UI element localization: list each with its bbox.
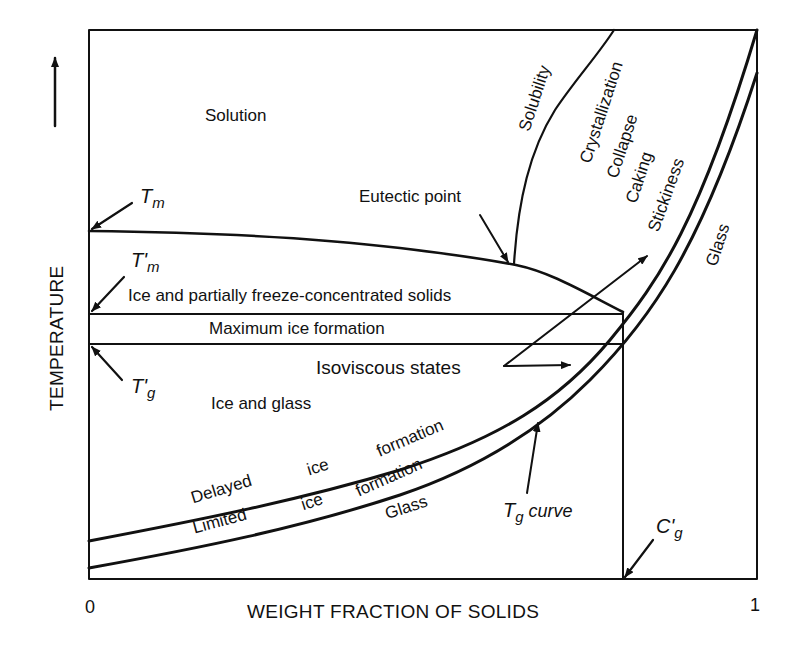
tm-prime-arrow xyxy=(92,277,124,311)
region-solution: Solution xyxy=(205,107,266,124)
y-axis-label: TEMPERATURE xyxy=(47,266,66,411)
tg-curve-arrow xyxy=(527,423,538,493)
x-axis-label: WEIGHT FRACTION OF SOLIDS xyxy=(247,602,539,621)
tm-label: Tm xyxy=(140,186,165,206)
state-diagram xyxy=(0,0,794,654)
tg-curve-label: Tg curve xyxy=(503,500,573,520)
isoviscous-arrow-lower xyxy=(504,365,570,366)
tm-prime-label: T'm xyxy=(131,250,160,270)
cg-prime-label: C'g xyxy=(656,516,683,536)
x-tick-0: 0 xyxy=(85,598,95,616)
isoviscous-arrow-upper xyxy=(504,256,647,366)
region-max-ice: Maximum ice formation xyxy=(209,320,385,337)
x-tick-1: 1 xyxy=(750,596,760,614)
tg-prime-label: T'g xyxy=(131,376,155,396)
tm-arrow xyxy=(92,203,132,229)
region-ice-partial: Ice and partially freeze-concentrated so… xyxy=(128,287,451,304)
isoviscous-states-label: Isoviscous states xyxy=(316,358,461,377)
eutectic-point-label: Eutectic point xyxy=(359,188,461,205)
tg-prime-arrow xyxy=(92,347,122,380)
eutectic-arrow xyxy=(480,215,508,262)
region-ice-glass: Ice and glass xyxy=(211,395,311,412)
cg-prime-arrow xyxy=(625,540,653,577)
